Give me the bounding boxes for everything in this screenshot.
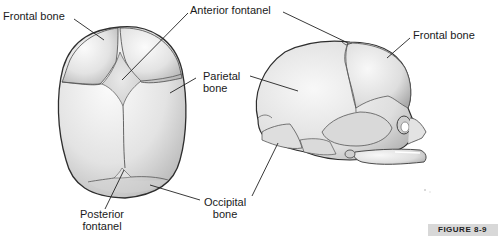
label-text: Frontal bone xyxy=(3,10,65,22)
label-posterior-fontanel: Posterior fontanel xyxy=(80,208,124,232)
superior-view-skull xyxy=(58,27,186,198)
label-text-line2: bone xyxy=(203,82,240,94)
label-text-line1: Occipital xyxy=(204,196,246,208)
label-text-line2: fontanel xyxy=(80,220,124,232)
label-anterior-fontanel: Anterior fontanel xyxy=(190,4,271,16)
figure-caption: FIGURE 8-9 xyxy=(428,224,498,236)
label-text-line2: bone xyxy=(204,208,246,220)
label-text: Frontal bone xyxy=(413,29,475,41)
lateral-view-skull xyxy=(256,41,426,164)
leader-occipital xyxy=(150,185,200,200)
leader-occipital-lateral xyxy=(252,143,278,196)
label-text: Anterior fontanel xyxy=(190,4,271,16)
label-frontal-bone-superior: Frontal bone xyxy=(3,10,65,22)
label-parietal-bone: Parietal bone xyxy=(203,70,240,94)
leader-anterior-fontanel-lateral xyxy=(283,12,348,43)
label-frontal-bone-lateral: Frontal bone xyxy=(413,29,475,41)
label-text-line1: Parietal xyxy=(203,70,240,82)
leader-frontal-lateral xyxy=(387,38,410,58)
label-text-line1: Posterior xyxy=(80,208,124,220)
label-occipital-bone: Occipital bone xyxy=(204,196,246,220)
